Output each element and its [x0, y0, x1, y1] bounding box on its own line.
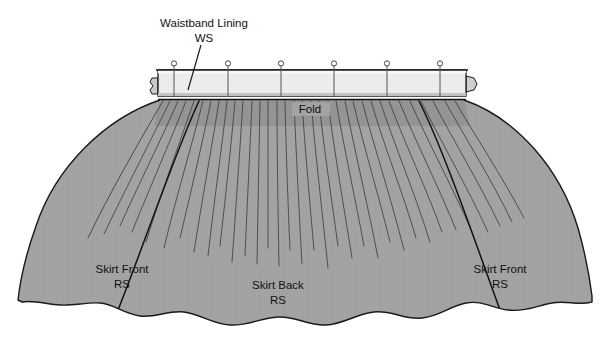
pin-head [171, 61, 176, 66]
waistband-bottom-shadow [158, 93, 466, 96]
skirt-front-left-label-line1: Skirt Front [95, 263, 149, 275]
pin-head [384, 61, 389, 66]
waistband-right-tab [466, 76, 477, 92]
waistband-lining-label-line1: Waistband Lining [160, 17, 248, 29]
waistband-lining-panel [158, 70, 466, 96]
skirt-back-label-line2: RS [270, 294, 286, 306]
skirt-front-right-label-line2: RS [492, 278, 508, 290]
waistband-left-tab [150, 78, 158, 94]
pin-head [331, 61, 336, 66]
skirt-back-label-line1: Skirt Back [252, 279, 304, 291]
pin-head [225, 61, 230, 66]
skirt-front-left-label-line2: RS [114, 278, 130, 290]
pin-head [278, 61, 283, 66]
fold-label: Fold [299, 103, 321, 115]
skirt-outline-shape [18, 100, 592, 325]
skirt-front-right-label-line1: Skirt Front [473, 263, 527, 275]
pin-head [437, 61, 442, 66]
skirt-body-group [18, 99, 592, 325]
waistband-lining-label-line2: WS [195, 32, 214, 44]
diagram-canvas: Fold [0, 0, 608, 344]
skirt-waistband-diagram: Fold [0, 0, 608, 344]
waistband-lining-group [150, 61, 477, 96]
